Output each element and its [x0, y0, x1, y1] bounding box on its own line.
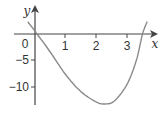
x-tick-label-3: 3 [124, 39, 131, 53]
x-tick-label-1: 1 [62, 39, 69, 53]
x-tick-label-0: 0 [22, 37, 29, 51]
y-tick-label-neg10: −10 [9, 80, 30, 94]
x-tick-label-2: 2 [93, 39, 100, 53]
x-axis-label: x [152, 37, 159, 51]
y-tick-label-neg5: −5 [15, 53, 29, 67]
chart: 0 1 2 3 −5 −10 x y [0, 0, 165, 115]
y-axis-label: y [23, 4, 31, 18]
